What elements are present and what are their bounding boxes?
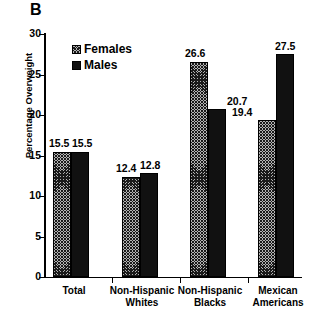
x-group-label-line: Non-Hispanic xyxy=(106,285,178,297)
bar-value-females-non-hispanic-whites: 12.4 xyxy=(116,163,136,174)
y-tick-label: 20 xyxy=(29,108,41,120)
x-group-label-line: Americans xyxy=(242,297,314,309)
y-tick-label: 25 xyxy=(29,68,41,80)
bar-males-non-hispanic-blacks xyxy=(208,109,226,277)
x-tick-separator-3 xyxy=(248,277,249,283)
y-tick-label: 10 xyxy=(29,189,41,201)
x-group-label-line: Mexican xyxy=(242,285,314,297)
bar-females-total xyxy=(53,152,71,278)
x-group-label-line: Blacks xyxy=(174,297,246,309)
figure-panel-b: B Percentage Overweight 0 5 10 15 20 25 xyxy=(0,0,314,315)
bar-males-mexican-americans xyxy=(276,54,294,277)
legend-label-males: Males xyxy=(84,58,117,72)
x-group-label-mexican-americans: Mexican Americans xyxy=(242,285,314,309)
y-tick-label: 0 xyxy=(35,270,41,282)
bar-females-mexican-americans xyxy=(258,120,276,277)
bar-value-males-mexican-americans: 27.5 xyxy=(275,41,295,52)
bar-value-females-non-hispanic-blacks: 26.6 xyxy=(185,48,205,59)
bar-males-non-hispanic-whites xyxy=(140,173,158,277)
bar-value-females-mexican-americans: 19.4 xyxy=(232,107,252,118)
y-tick-label: 30 xyxy=(29,27,41,39)
bar-value-males-total: 15.5 xyxy=(72,138,92,149)
legend-swatch-females-icon xyxy=(72,45,81,54)
bar-females-non-hispanic-whites xyxy=(122,177,140,278)
bar-males-total xyxy=(71,152,89,278)
x-tick-separator-1 xyxy=(112,277,113,283)
legend-entry-males: Males xyxy=(72,58,132,72)
bar-females-non-hispanic-blacks xyxy=(190,62,208,278)
x-group-label-total: Total xyxy=(38,285,110,297)
x-tick-separator-2 xyxy=(180,277,181,283)
legend: Females Males xyxy=(72,42,132,74)
x-group-label-line: Total xyxy=(38,285,110,297)
legend-label-females: Females xyxy=(84,42,132,56)
y-axis-title: Percentage Overweight xyxy=(23,26,34,186)
panel-label: B xyxy=(30,2,42,18)
y-tick-label: 5 xyxy=(35,230,41,242)
bar-value-males-non-hispanic-whites: 12.8 xyxy=(140,160,160,171)
x-group-label-line: Non-Hispanic xyxy=(174,285,246,297)
y-tick-label: 15 xyxy=(29,149,41,161)
bar-value-females-total: 15.5 xyxy=(49,138,69,149)
x-group-label-non-hispanic-whites: Non-Hispanic Whites xyxy=(106,285,178,309)
x-group-label-non-hispanic-blacks: Non-Hispanic Blacks xyxy=(174,285,246,309)
legend-swatch-males-icon xyxy=(72,61,81,70)
legend-entry-females: Females xyxy=(72,42,132,56)
x-group-label-line: Whites xyxy=(106,297,178,309)
